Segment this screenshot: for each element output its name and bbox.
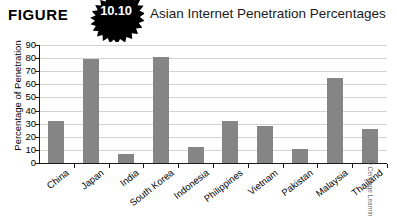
y-axis-tick-label: 80 [14, 53, 36, 63]
x-axis-tick-label: India [118, 167, 141, 188]
bar [83, 59, 99, 163]
figure-header: FIGURE 10.10 Asian Internet Penetration … [0, 0, 397, 34]
x-axis-tick-label: Japan [79, 167, 106, 192]
y-axis-tick-label: 70 [14, 66, 36, 76]
figure-container: FIGURE 10.10 Asian Internet Penetration … [0, 0, 397, 216]
bar [327, 78, 343, 163]
figure-number: 10.10 [88, 3, 144, 18]
y-axis-tick-label: 40 [14, 106, 36, 116]
x-axis-tickmark [74, 164, 75, 168]
x-axis-tick-labels: ChinaJapanIndiaSouth KoreaIndonesiaPhili… [39, 167, 387, 215]
bar [362, 129, 378, 163]
x-axis-tickmark [387, 164, 388, 168]
y-axis-tick-label: 30 [14, 119, 36, 129]
y-axis-tick-labels: 0102030405060708090 [14, 34, 36, 216]
bar-chart: Percentage of Penetration 01020304050607… [0, 34, 397, 216]
x-axis-tick-label: China [45, 167, 71, 191]
y-axis-tick-label: 50 [14, 93, 36, 103]
y-axis-tickmark [35, 137, 39, 138]
x-axis-tickmark [283, 164, 284, 168]
y-axis-tickmark [35, 150, 39, 151]
bar [257, 126, 273, 163]
bar [222, 121, 238, 163]
x-axis-tickmark [352, 164, 353, 168]
y-axis-tickmark [35, 71, 39, 72]
y-axis-tick-label: 60 [14, 80, 36, 90]
bar [153, 57, 169, 163]
y-axis-tickmark [35, 111, 39, 112]
bar [292, 149, 308, 163]
x-axis-tick-label: Vietnam [246, 167, 280, 197]
x-axis-tickmark [213, 164, 214, 168]
x-axis-tickmark [178, 164, 179, 168]
x-axis-tickmark [143, 164, 144, 168]
x-axis-tickmark [248, 164, 249, 168]
figure-title: Asian Internet Penetration Percentages [150, 6, 386, 21]
y-axis-tickmark [35, 45, 39, 46]
y-axis-tickmark [35, 163, 39, 164]
y-axis-tick-label: 20 [14, 132, 36, 142]
y-axis-tickmark [35, 58, 39, 59]
y-axis-tickmark [35, 124, 39, 125]
y-axis-tickmark [35, 84, 39, 85]
y-axis-tick-label: 90 [14, 40, 36, 50]
x-axis-tickmark [317, 164, 318, 168]
bar [48, 121, 64, 163]
x-axis-tick-label: Malaysia [313, 167, 349, 199]
figure-label: FIGURE [8, 6, 68, 23]
x-axis-tick-label: Pakistan [279, 167, 314, 198]
y-axis-tick-label: 10 [14, 145, 36, 155]
copyright-credit: © Cengage Learning [367, 160, 374, 216]
x-axis-tickmark [109, 164, 110, 168]
y-axis-tick-label: 0 [14, 158, 36, 168]
bar-series [39, 45, 387, 163]
y-axis-tickmark [35, 97, 39, 98]
bar [188, 147, 204, 163]
bar [118, 154, 134, 163]
